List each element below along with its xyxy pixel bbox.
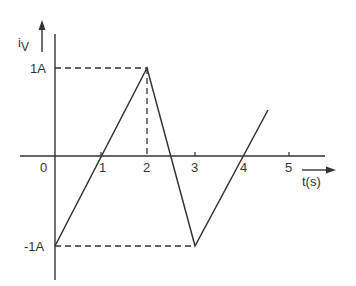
x-arrowhead-icon (326, 167, 336, 174)
x-axis-label: t(s) (302, 174, 321, 189)
y-tick-1A: 1A (30, 61, 46, 76)
x-tick-5: 5 (285, 160, 292, 175)
current-waveform-diagram: iV 1A -1A 0 1 2 3 4 5 t(s) (0, 0, 356, 286)
x-tick-1: 1 (99, 160, 106, 175)
x-tick-4: 4 (240, 160, 247, 175)
origin-label: 0 (40, 160, 47, 175)
y-tick-neg1A: -1A (24, 239, 45, 254)
y-arrowhead-icon (39, 20, 46, 30)
x-tick-2: 2 (143, 160, 150, 175)
y-axis-label: iV (18, 35, 29, 54)
waveform-line (55, 68, 268, 246)
x-tick-3: 3 (191, 160, 198, 175)
